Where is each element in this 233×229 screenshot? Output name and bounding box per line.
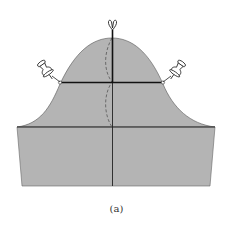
right-pin-shaft <box>163 76 171 82</box>
right-pin-icon <box>166 58 188 82</box>
figure-caption: (a) <box>0 203 233 214</box>
sleeve-lower-rectangle <box>17 127 215 186</box>
top-pin-icon <box>108 20 116 30</box>
left-pin-shaft <box>52 76 60 82</box>
sleeve-pattern-diagram <box>0 0 233 229</box>
left-pin-icon <box>35 58 57 82</box>
